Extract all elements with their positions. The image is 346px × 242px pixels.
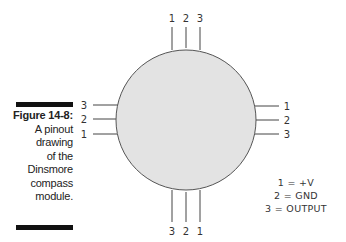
legend-item: 3 = OUTPUT bbox=[256, 202, 336, 215]
left-pin-label: 3 bbox=[81, 100, 87, 111]
top-pin-label: 3 bbox=[197, 13, 203, 24]
compass-module-body bbox=[116, 50, 256, 190]
top-pins bbox=[172, 27, 200, 50]
bottom-pins bbox=[172, 190, 200, 222]
left-pin-label: 1 bbox=[81, 129, 87, 140]
top-pin-label: 2 bbox=[183, 13, 189, 24]
bottom-pin-label: 3 bbox=[169, 226, 175, 237]
legend-item: 1 = +V bbox=[256, 176, 336, 189]
bottom-pin-label: 2 bbox=[183, 226, 189, 237]
right-pins bbox=[254, 106, 279, 134]
right-pin-label: 2 bbox=[284, 115, 290, 126]
left-pin-label: 2 bbox=[81, 114, 87, 125]
left-pins bbox=[93, 105, 118, 134]
top-pin-label: 1 bbox=[169, 13, 175, 24]
pin-legend: 1 = +V 2 = GND 3 = OUTPUT bbox=[256, 176, 336, 215]
right-pin-label: 1 bbox=[284, 101, 290, 112]
legend-item: 2 = GND bbox=[256, 189, 336, 202]
bottom-pin-label: 1 bbox=[197, 226, 203, 237]
right-pin-label: 3 bbox=[284, 129, 290, 140]
